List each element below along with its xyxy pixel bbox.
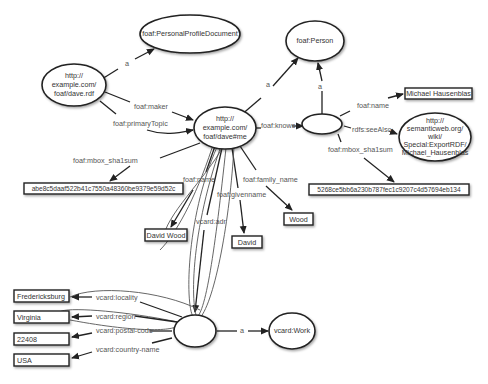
node-michael-name[interactable]: Michael Hausenblas xyxy=(405,88,472,99)
edge-postal: vcard:postal-code xyxy=(72,326,172,337)
node-dave-rdf[interactable]: http:// example.com/ foaf/dave.rdf xyxy=(42,64,106,106)
node-sha-michael[interactable]: 5268ce5bb6a230b787fec1c9207c4d57694eb134 xyxy=(309,184,469,195)
node-blank-adr[interactable] xyxy=(174,315,216,347)
svg-text:foaf:mbox_sha1sum: foaf:mbox_sha1sum xyxy=(328,145,393,154)
svg-text:Wood: Wood xyxy=(289,215,308,224)
edge-d-family: foaf:family_name xyxy=(240,146,298,210)
edge-adr-a: a xyxy=(217,326,268,335)
node-foaf-person[interactable]: foaf:Person xyxy=(286,21,344,61)
svg-text:foaf:Person: foaf:Person xyxy=(297,36,334,45)
node-vcard-work[interactable]: vcard:Work xyxy=(269,313,315,349)
svg-text:foaf:name: foaf:name xyxy=(357,101,389,110)
edge-me-a: a xyxy=(240,58,298,116)
edge-m-sha: foaf:mbox_sha1sum xyxy=(328,134,394,182)
edge-region: vcard:region xyxy=(72,312,177,322)
svg-text:foaf:PersonalProfileDocument: foaf:PersonalProfileDocument xyxy=(142,29,237,38)
node-david-wood[interactable]: David Wood xyxy=(145,229,187,241)
svg-text:a: a xyxy=(266,80,270,89)
svg-text:Michael_Hausenblas: Michael_Hausenblas xyxy=(402,148,469,157)
svg-text:vcard:Work: vcard:Work xyxy=(274,326,311,335)
edge-dave-a: a xyxy=(102,49,154,79)
svg-text:Fredericksburg: Fredericksburg xyxy=(17,292,65,301)
edge-knows: foaf:knows xyxy=(254,121,303,130)
edge-country: vcard:country-name xyxy=(72,338,172,358)
svg-text:foaf/dave.rdf: foaf/dave.rdf xyxy=(54,89,94,98)
node-fredericksburg[interactable]: Fredericksburg xyxy=(14,290,69,302)
node-personal-profile-document[interactable]: foaf:PersonalProfileDocument xyxy=(140,15,240,53)
svg-text:David Wood: David Wood xyxy=(146,231,185,240)
svg-text:5268ce5bb6a230b787fec1c9207c4d: 5268ce5bb6a230b787fec1c9207c4d57694eb134 xyxy=(317,186,461,193)
svg-text:a: a xyxy=(125,59,129,68)
node-dave-me[interactable]: http:// example.com/ foaf/dave#me xyxy=(194,107,256,149)
svg-text:http://: http:// xyxy=(216,114,234,123)
svg-text:David: David xyxy=(238,238,256,247)
svg-text:foaf:knows: foaf:knows xyxy=(261,121,296,130)
node-usa[interactable]: USA xyxy=(14,354,69,366)
node-sha-dave[interactable]: abe8c5daaf522b41c7550a48360be9379e59d52c xyxy=(24,183,183,194)
svg-text:example.com/: example.com/ xyxy=(52,80,97,89)
svg-text:http://: http:// xyxy=(65,71,83,80)
svg-text:rdfs:seeAlso: rdfs:seeAlso xyxy=(352,125,392,134)
node-see-also[interactable]: http:// semanticweb.org/ wiki/ Special:E… xyxy=(399,113,471,161)
rdf-graph-diagram: a foaf:maker foaf:primaryTopic a foaf:kn… xyxy=(0,0,488,384)
edge-d-sha: foaf:mbox_sha1sum xyxy=(73,143,200,181)
svg-text:foaf:primaryTopic: foaf:primaryTopic xyxy=(113,119,168,128)
node-postal-code[interactable]: 22408 xyxy=(14,333,69,345)
svg-text:foaf:family_name: foaf:family_name xyxy=(243,175,298,184)
edge-m-name: foaf:name xyxy=(340,94,403,116)
svg-text:vcard:country-name: vcard:country-name xyxy=(96,345,160,354)
svg-text:22408: 22408 xyxy=(17,335,37,344)
svg-text:a: a xyxy=(318,82,322,91)
svg-text:foaf:mbox_sha1sum: foaf:mbox_sha1sum xyxy=(73,156,138,165)
edge-see-also: rdfs:seeAlso xyxy=(344,125,397,134)
svg-text:USA: USA xyxy=(17,356,32,365)
svg-text:Virginia: Virginia xyxy=(17,313,41,322)
svg-text:foaf:givenname: foaf:givenname xyxy=(217,190,266,199)
svg-text:vcard:locality: vcard:locality xyxy=(96,293,138,302)
node-david[interactable]: David xyxy=(232,236,262,248)
svg-text:foaf/dave#me: foaf/dave#me xyxy=(203,132,247,141)
svg-text:Michael Hausenblas: Michael Hausenblas xyxy=(406,89,471,98)
node-blank-knows[interactable] xyxy=(302,114,342,134)
edge-maker: foaf:maker xyxy=(105,92,193,120)
node-virginia[interactable]: Virginia xyxy=(14,311,69,323)
svg-text:vcard:region: vcard:region xyxy=(96,312,136,321)
svg-text:abe8c5daaf522b41c7550a48360be9: abe8c5daaf522b41c7550a48360be9379e59d52c xyxy=(32,185,176,192)
svg-text:example.com/: example.com/ xyxy=(203,123,248,132)
svg-text:foaf:maker: foaf:maker xyxy=(134,102,169,111)
edge-d-adr: vcard:adr xyxy=(195,148,227,312)
edge-blank-a: a xyxy=(318,63,322,114)
svg-text:vcard:postal-code: vcard:postal-code xyxy=(96,326,153,335)
svg-text:a: a xyxy=(240,326,244,335)
node-wood[interactable]: Wood xyxy=(284,213,313,225)
